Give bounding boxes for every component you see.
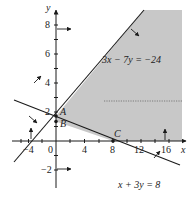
x-tick-4: 4 [82,145,87,155]
line-label-3x-7y: 3x − 7y = −24 [102,55,161,65]
y-tick-6: 6 [45,49,50,59]
y-tick-2: 2 [45,107,50,117]
x-tick-neg4: −4 [23,145,34,155]
point-c [111,139,115,143]
point-a [54,114,58,118]
y-tick-8: 8 [45,20,50,30]
shaded-region [56,10,182,141]
y-axis-label: y [46,3,50,13]
feasible-region-graph [0,0,191,205]
x-tick-16: 16 [161,145,171,155]
line-label-x-3y: x + 3y = 8 [118,180,160,190]
x-tick-8: 8 [110,145,115,155]
point-label-a: A [60,107,66,117]
y-tick-neg2: −2 [41,165,52,175]
x-axis-label: x [181,145,185,155]
point-label-b: B [60,119,66,129]
x-tick-0: 0 [48,145,53,155]
x-tick-12: 12 [134,145,144,155]
y-tick-4: 4 [45,78,50,88]
point-b [54,120,58,124]
point-label-c: C [114,129,121,139]
